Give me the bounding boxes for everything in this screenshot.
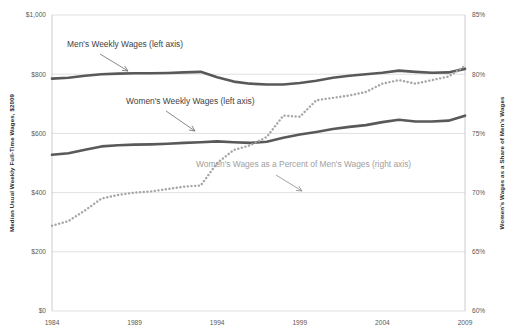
y-axis-left-tick-label: $600 — [31, 130, 46, 137]
series-annotation-label: Women's Weekly Wages (left axis) — [126, 96, 255, 106]
annotation-layer: Men's Weekly Wages (left axis)Women's We… — [67, 39, 411, 191]
y-axis-right-title: Women's Wages as a Share of Men's Wages — [498, 96, 505, 230]
y-axis-right-tick-label: 75% — [472, 130, 485, 137]
x-axis-tick-label: 2009 — [458, 319, 473, 326]
annotation-arrow-shaft — [276, 175, 302, 191]
chart-container: $0$200$400$600$800$1,000 60%65%70%75%80%… — [0, 0, 517, 332]
y-axis-left-tick-label: $400 — [31, 189, 46, 196]
y-axis-right-tick-label: 70% — [472, 189, 485, 196]
y-axis-right-tick-label: 60% — [472, 307, 485, 314]
wage-gap-line-chart: $0$200$400$600$800$1,000 60%65%70%75%80%… — [0, 0, 517, 332]
series-line — [52, 69, 465, 85]
y-axis-left-tick-label: $200 — [31, 248, 46, 255]
x-axis-tick-label: 2004 — [375, 319, 390, 326]
annotation-arrow-shaft — [166, 111, 195, 131]
y-axis-right-tick-label: 65% — [472, 248, 485, 255]
x-axis-tick-label: 1994 — [210, 319, 225, 326]
y-axis-left-title: Median Usual Weekly Full-Time Wages, $20… — [8, 93, 15, 232]
annotation-arrow-shaft — [100, 54, 128, 71]
y-axis-left-tick-labels: $0$200$400$600$800$1,000 — [26, 11, 47, 314]
x-axis-tick-label: 1999 — [292, 319, 307, 326]
y-axis-left-tick-label: $0 — [39, 307, 47, 314]
x-axis-tick-label: 1984 — [45, 319, 60, 326]
y-axis-right-tick-label: 80% — [472, 71, 485, 78]
series-line — [52, 116, 465, 155]
series-layer — [52, 66, 465, 226]
y-axis-left-tick-label: $1,000 — [26, 11, 47, 18]
series-annotation-label: Women's Wages as a Percent of Men's Wage… — [196, 159, 411, 169]
y-axis-right-tick-labels: 60%65%70%75%80%85% — [472, 11, 485, 314]
y-axis-right-tick-label: 85% — [472, 11, 485, 18]
x-axis-tick-labels: 198419891994199920042009 — [45, 319, 473, 326]
x-axis-tick-label: 1989 — [127, 319, 142, 326]
y-axis-left-tick-label: $800 — [31, 71, 46, 78]
series-annotation-label: Men's Weekly Wages (left axis) — [67, 39, 183, 49]
